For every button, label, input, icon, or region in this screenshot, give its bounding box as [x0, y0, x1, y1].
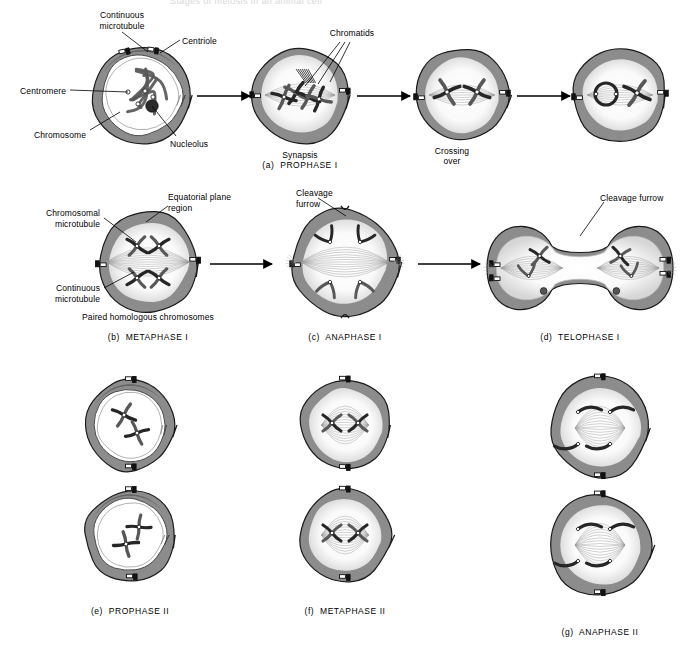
label-leader-line — [160, 40, 180, 53]
cell-sublabel-prophase-1-synapsis: Synapsis — [282, 150, 317, 160]
cell-telophase-1 — [484, 226, 677, 309]
label-leader-line — [580, 202, 604, 236]
annotation-label: Continuous microtubule — [99, 10, 144, 31]
stage-caption: (d) TELOPHASE I — [540, 332, 620, 342]
annotation-label: Nucleolus — [170, 139, 208, 150]
annotation-label: Equatorial plane region — [168, 192, 231, 213]
cell-sublabel-metaphase-1: Paired homologous chromosomes — [82, 312, 214, 322]
stage-caption: (e) PROPHASE II — [91, 606, 169, 616]
cell-prophase-1-crossing-over — [414, 50, 512, 140]
annotation-label: Centromere — [20, 86, 66, 97]
stage-caption: (f) METAPHASE II — [305, 606, 386, 616]
stage-caption: (b) METAPHASE I — [108, 332, 188, 342]
annotation-label: Chromosome — [34, 130, 86, 141]
annotation-label: Cleavage furrow — [600, 193, 663, 204]
cell-metaphase-2-top — [300, 376, 390, 470]
cell-prophase-2-bottom — [85, 486, 176, 580]
cell-prophase-1-synapsis — [250, 48, 350, 143]
stage-caption: (g) ANAPHASE II — [562, 627, 639, 637]
cell-anaphase-2-bottom — [551, 491, 655, 596]
cell-anaphase-1 — [286, 206, 405, 318]
stage-caption: (a) PROPHASE I — [262, 160, 337, 170]
meiosis-diagram: Stages of meiosis in an animal cell Cont… — [0, 0, 700, 658]
cell-metaphase-2-bottom — [300, 486, 395, 582]
annotation-label: Cleavage furrow — [296, 188, 333, 209]
centriole-icon — [340, 464, 351, 470]
cell-prophase-1-early — [92, 47, 192, 144]
annotation-label: Continuous microtubule — [55, 283, 100, 304]
annotation-label: Chromosomal microtubule — [46, 208, 100, 229]
meiosis-artwork — [0, 0, 700, 658]
annotation-label: Chromatids — [330, 28, 374, 39]
cell-prophase-2-top — [85, 376, 177, 471]
cell-metaphase-1 — [96, 212, 201, 313]
stage-caption: (c) ANAPHASE I — [308, 332, 381, 342]
annotation-label: Centriole — [182, 36, 217, 47]
cell-prophase-1-late — [572, 49, 669, 142]
cell-anaphase-2-top — [551, 374, 650, 479]
cell-sublabel-prophase-1-crossing-over: Crossing over — [435, 146, 469, 166]
